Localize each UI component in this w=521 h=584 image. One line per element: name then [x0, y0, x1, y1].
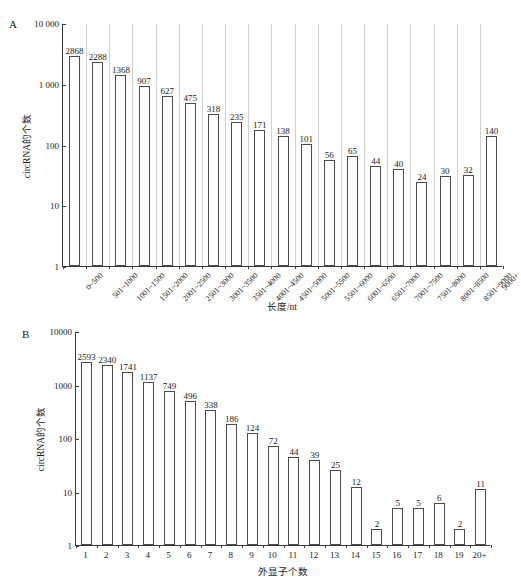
bar [185, 401, 196, 545]
bar-value-label: 496 [183, 391, 197, 401]
panel-b-plot-area: 1000010001001012593234017411137749496338… [75, 332, 490, 546]
x-axis-category-label: 13 [330, 550, 339, 560]
x-axis-tick [76, 545, 77, 548]
x-axis-tick [387, 266, 388, 269]
bar [454, 529, 465, 545]
panel-b-letter: B [22, 328, 30, 340]
bar-value-label: 1741 [119, 362, 137, 372]
category-separator [410, 24, 411, 266]
bar-value-label: 72 [269, 436, 278, 446]
x-axis-tick [367, 545, 368, 548]
x-axis-category-label: 8 [228, 550, 233, 560]
bar-value-label: 338 [204, 400, 218, 410]
bar [301, 144, 312, 266]
y-axis-tick-label: 1 [55, 262, 64, 272]
x-axis-tick [346, 545, 347, 548]
x-axis-tick [434, 266, 435, 269]
bar [370, 166, 381, 266]
bar [247, 433, 258, 545]
bar-value-label: 2 [375, 519, 380, 529]
bar-value-label: 475 [184, 93, 198, 103]
category-separator [86, 24, 87, 266]
panel-b-x-axis-label: 外显子个数 [258, 564, 308, 578]
bar [143, 382, 154, 545]
bar [463, 175, 474, 266]
bar-value-label: 30 [441, 166, 450, 176]
bar-value-label: 56 [325, 150, 334, 160]
bar [278, 136, 289, 266]
x-axis-category-label: 20+ [473, 550, 487, 560]
panel-a-plot-area: 10 0001 00010010128682288136890762747531… [62, 24, 502, 267]
category-separator [248, 24, 249, 266]
category-separator [271, 24, 272, 266]
bar-value-label: 11 [476, 479, 485, 489]
x-axis-tick [97, 545, 98, 548]
bar [475, 489, 486, 545]
x-axis-category-label: 1 [83, 550, 88, 560]
bar-value-label: 2868 [66, 46, 84, 56]
x-axis-tick [221, 545, 222, 548]
bar-value-label: 1137 [140, 372, 158, 382]
category-separator [318, 24, 319, 266]
bar-value-label: 140 [485, 126, 499, 136]
bar-value-label: 2288 [89, 52, 107, 62]
x-axis-tick [387, 545, 388, 548]
x-axis-tick [248, 266, 249, 269]
bar [115, 75, 126, 266]
bar-value-label: 24 [417, 172, 426, 182]
y-axis-tick-label: 10000 [50, 327, 77, 337]
x-axis-category-label: 2 [104, 550, 109, 560]
panel-a-y-axis-label: circRNA的个数 [19, 113, 33, 177]
x-axis-category-label: 4 [145, 550, 150, 560]
x-axis-tick [156, 266, 157, 269]
y-axis-tick-label: 100 [59, 434, 77, 444]
bar [92, 62, 103, 266]
x-axis-tick [271, 266, 272, 269]
panel-a-letter: A [9, 18, 17, 30]
bar [69, 56, 80, 266]
bar [434, 503, 445, 545]
panel-a: A circRNA的个数 10 0001 0001001012868228813… [0, 0, 516, 310]
x-axis-tick [480, 266, 481, 269]
bar-value-label: 5 [395, 498, 400, 508]
y-axis-tick-label: 10 [63, 488, 76, 498]
bar [440, 176, 451, 266]
x-axis-tick [179, 266, 180, 269]
bar-value-label: 2340 [98, 355, 116, 365]
x-axis-tick [318, 266, 319, 269]
x-axis-tick [202, 266, 203, 269]
x-axis-category-label: 7 [208, 550, 213, 560]
bar [347, 156, 358, 266]
x-axis-tick [325, 545, 326, 548]
bar [351, 487, 362, 545]
x-axis-category-label: 0~500 [84, 271, 105, 292]
category-separator [225, 24, 226, 266]
bar [185, 103, 196, 266]
category-separator [295, 24, 296, 266]
x-axis-category-label: 5 [166, 550, 171, 560]
x-axis-category-label: 19 [454, 550, 463, 560]
y-axis-tick-label: 100 [46, 141, 64, 151]
bar [288, 457, 299, 545]
bar-value-label: 44 [371, 156, 380, 166]
x-axis-category-label: 18 [434, 550, 443, 560]
x-axis-tick [132, 266, 133, 269]
bar [416, 182, 427, 266]
category-separator [156, 24, 157, 266]
x-axis-category-label: 15 [371, 550, 380, 560]
bar [486, 136, 497, 266]
category-separator [132, 24, 133, 266]
bar-value-label: 2 [458, 519, 463, 529]
bar-value-label: 318 [207, 104, 221, 114]
x-axis-tick [138, 545, 139, 548]
bar-value-label: 12 [352, 477, 361, 487]
x-axis-tick [242, 545, 243, 548]
bar-value-label: 235 [230, 112, 244, 122]
bar-value-label: 65 [348, 146, 357, 156]
x-axis-tick [263, 545, 264, 548]
x-axis-category-label: 6 [187, 550, 192, 560]
x-axis-category-label: 14 [351, 550, 360, 560]
bar [208, 114, 219, 266]
bar-value-label: 39 [310, 450, 319, 460]
